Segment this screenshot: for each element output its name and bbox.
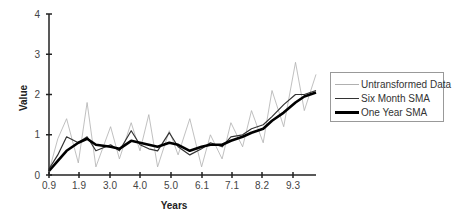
y-tick-label: 2 bbox=[34, 89, 40, 100]
x-tick-label: 8.2 bbox=[255, 180, 269, 191]
series-line bbox=[49, 93, 316, 172]
y-tick-label: 0 bbox=[34, 170, 40, 181]
legend-item-one-year: One Year SMA bbox=[335, 105, 427, 119]
legend-label: Untransformed Data bbox=[361, 79, 451, 90]
x-tick-label: 4.0 bbox=[133, 180, 147, 191]
chart-legend: Untransformed Data Six Month SMA One Yea… bbox=[330, 72, 444, 122]
legend-swatch-icon bbox=[335, 111, 359, 114]
y-axis-title: Value bbox=[18, 85, 29, 112]
x-tick-label: 7.1 bbox=[225, 180, 239, 191]
x-tick-label: 1.9 bbox=[72, 180, 86, 191]
legend-swatch-icon bbox=[335, 98, 359, 99]
x-axis-title: Years bbox=[161, 200, 188, 211]
legend-swatch-icon bbox=[335, 84, 359, 85]
legend-label: One Year SMA bbox=[361, 107, 427, 118]
legend-item-untransformed: Untransformed Data bbox=[335, 77, 451, 91]
y-tick-label: 3 bbox=[34, 49, 40, 60]
x-tick-label: 6.1 bbox=[195, 180, 209, 191]
x-tick-label: 3.0 bbox=[103, 180, 117, 191]
y-tick-label: 4 bbox=[34, 9, 40, 20]
plot-lines bbox=[49, 62, 316, 171]
x-tick-label: 5.0 bbox=[164, 180, 178, 191]
x-tick-label: 0.9 bbox=[42, 180, 56, 191]
x-tick-label: 9.3 bbox=[286, 180, 300, 191]
legend-item-six-month: Six Month SMA bbox=[335, 91, 430, 105]
y-tick-label: 1 bbox=[34, 129, 40, 140]
legend-label: Six Month SMA bbox=[361, 93, 430, 104]
